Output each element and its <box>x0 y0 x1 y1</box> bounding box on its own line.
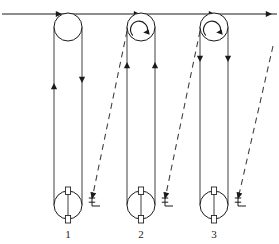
axle-lug-top-2 <box>138 187 143 195</box>
axle-lug-bottom-2 <box>138 216 143 224</box>
dashed-reference-line-3 <box>238 46 273 199</box>
top-pulley-1 <box>54 13 82 41</box>
assembly-label-3: 3 <box>211 228 217 240</box>
axle-lug-bottom-1 <box>65 216 70 224</box>
cable-right-arrow-2 <box>152 62 158 68</box>
axle-lug-top-3 <box>211 187 216 195</box>
assembly-label-2: 2 <box>138 228 144 240</box>
pulley-diagram-root: 123 <box>0 0 279 244</box>
axle-lug-top-1 <box>65 187 70 195</box>
overhead-cable-arrow-4 <box>266 11 272 17</box>
dashed-reference-line-2 <box>165 31 200 199</box>
cable-right-arrow-1 <box>79 77 85 83</box>
assembly-label-1: 1 <box>65 228 71 240</box>
diagram-canvas: 123 <box>0 0 279 244</box>
cable-left-arrow-2 <box>124 62 130 68</box>
axle-lug-bottom-3 <box>211 216 216 224</box>
cable-left-arrow-1 <box>51 83 57 89</box>
cable-right-arrow-3 <box>225 56 231 62</box>
dashed-reference-line-1 <box>92 31 127 199</box>
cable-left-arrow-3 <box>197 56 203 62</box>
